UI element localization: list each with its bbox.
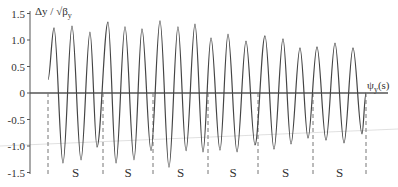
orbit-curve [48, 21, 366, 167]
y-tick-label: -1.5 [8, 167, 26, 179]
y-tick-label: -1.0 [8, 140, 26, 152]
y-tick-label: 1.0 [11, 34, 25, 46]
section-label: S [124, 165, 131, 180]
y-tick-label: 1.5 [11, 8, 25, 20]
y-tick-label: 0.5 [11, 61, 25, 73]
section-label: S [72, 165, 79, 180]
y-axis-ticks: 1.51.00.50-0.5-1.0-1.5 [8, 8, 30, 179]
section-label: S [177, 165, 184, 180]
section-label: S [229, 165, 236, 180]
section-label: S [336, 165, 343, 180]
orbit-chart: 1.51.00.50-0.5-1.0-1.5 Δy / √βy ψy(s) SS… [0, 0, 398, 187]
y-tick-label: 0 [20, 87, 26, 99]
y-tick-label: -0.5 [8, 114, 26, 126]
x-axis-title: ψy(s) [367, 79, 390, 94]
y-axis-title: Δy / √βy [35, 5, 72, 20]
section-label: S [282, 165, 289, 180]
